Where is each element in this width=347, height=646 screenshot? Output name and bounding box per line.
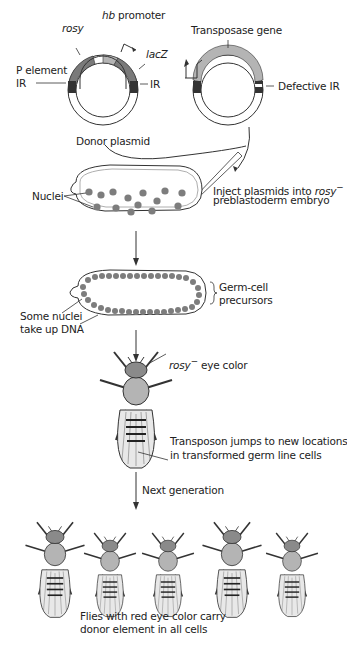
label-donor-plasmid: Donor plasmid (76, 135, 150, 147)
eye-minus: − (191, 356, 198, 366)
blastoderm-embryo (62, 270, 217, 324)
label-donor-element: donor element in all cells (80, 623, 207, 635)
label-ir-right: IR (150, 78, 160, 90)
label-preblastoderm: preblastoderm embryo (213, 194, 329, 206)
donor-plasmid (36, 44, 148, 125)
preblastoderm-embryo (64, 165, 202, 216)
offspring-flies (25, 522, 317, 617)
label-next-generation: Next generation (142, 484, 224, 496)
label-lacz: lacZ (146, 48, 168, 60)
label-take-up-dna: take up DNA (20, 323, 84, 335)
eye-text: eye color (198, 359, 248, 371)
label-flies-red-eye: Flies with red eye color carry (80, 610, 226, 622)
label-transposon-jumps: Transposon jumps to new locations (170, 435, 347, 447)
label-p-element: P element (16, 64, 67, 76)
label-germ-line: in transformed germ line cells (170, 449, 322, 461)
label-rosy: rosy (62, 22, 84, 34)
inject-minus: − (336, 182, 343, 192)
label-hb-promoter: hb promoter (102, 9, 165, 21)
label-defective-ir: Defective IR (278, 80, 340, 92)
label-transposase-gene: Transposase gene (191, 24, 282, 36)
label-hb: hb (102, 9, 115, 21)
helper-plasmid (184, 40, 274, 125)
label-precursors: precursors (219, 294, 273, 306)
label-germ-cell: Germ-cell (219, 281, 268, 293)
parent-fly (100, 352, 172, 468)
label-ir-left: IR (16, 77, 26, 89)
label-some-nuclei: Some nuclei (20, 310, 82, 322)
label-promoter: promoter (118, 9, 165, 21)
label-eye-color: rosy− eye color (169, 355, 247, 371)
label-nuclei: Nuclei (32, 190, 63, 202)
eye-rosy: rosy (169, 359, 191, 371)
